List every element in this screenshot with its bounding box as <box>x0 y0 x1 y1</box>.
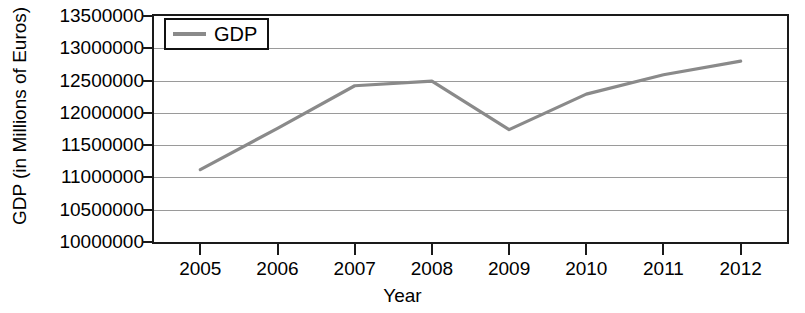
legend-swatch-gdp <box>173 32 206 36</box>
y-axis-tick-label: 10500000 <box>24 200 144 219</box>
x-axis-tick-mark <box>199 244 201 255</box>
y-axis-tick-label: 13500000 <box>24 6 144 25</box>
x-axis-tick-label: 2012 <box>696 258 786 280</box>
y-axis-tick-label: 12000000 <box>24 103 144 122</box>
y-axis-tick-labels: 1350000013000000125000001200000011500000… <box>20 0 144 313</box>
x-axis-tick-mark <box>431 244 433 255</box>
legend-label-gdp: GDP <box>214 24 257 44</box>
y-axis-tick-label: 11000000 <box>24 167 144 186</box>
x-axis-tick-mark <box>508 244 510 255</box>
x-axis-tick-mark <box>277 244 279 255</box>
y-axis-tick-label: 10000000 <box>24 232 144 251</box>
y-axis-tick-label: 11500000 <box>24 135 144 154</box>
chart-legend: GDP <box>164 18 269 50</box>
gdp-line-chart: GDP (in Millions of Euros) 1350000013000… <box>0 0 805 313</box>
series-line-gdp <box>200 61 740 169</box>
y-axis-tick-label: 13000000 <box>24 38 144 57</box>
y-axis-tick-label: 12500000 <box>24 71 144 90</box>
x-axis-tick-mark <box>585 244 587 255</box>
x-axis-tick-mark <box>740 244 742 255</box>
x-axis-title: Year <box>0 285 805 307</box>
x-axis-tick-mark <box>354 244 356 255</box>
x-axis-tick-mark <box>662 244 664 255</box>
